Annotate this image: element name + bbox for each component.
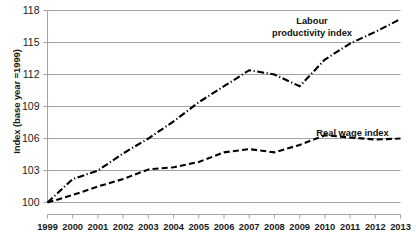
x-axis-tick-marks [48,215,401,219]
gridlines [48,11,401,203]
series-label-real-wage: Real wage index [300,128,405,140]
x-axis-tick-label: 2013 [385,222,416,232]
y-axis-tick-label: 112 [10,68,40,80]
y-axis-tick-label: 100 [10,196,40,208]
y-axis-tick-label: 103 [10,164,40,176]
y-axis-tick-label: 109 [10,100,40,112]
y-axis-tick-label: 115 [10,36,40,48]
y-axis-tick-marks [44,11,48,203]
data-series-layer [48,19,401,202]
y-axis-tick-label: 118 [10,4,40,16]
y-axis-tick-label: 106 [10,132,40,144]
series-label-labour-productivity: Labour productivity index [258,16,366,39]
